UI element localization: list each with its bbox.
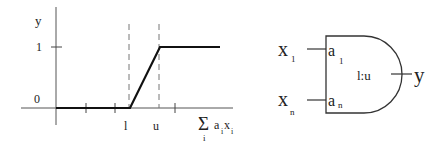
sigma-symbol: Σ [198, 113, 209, 134]
y-tick-label-0: 0 [34, 92, 40, 106]
diagram-canvas: y 1 0 l u Σ i a i x i x 1 x n a 1 a n l:… [0, 0, 443, 143]
weight-subscript-1: 1 [339, 56, 344, 66]
x-subscript: i [231, 127, 234, 136]
x-tick-label-u: u [153, 119, 159, 133]
weight-label-n: a [328, 92, 335, 109]
threshold-label: l:u [357, 68, 371, 83]
weight-label-1: a [328, 42, 335, 59]
input-subscript-1: 1 [291, 54, 296, 64]
x-tick-label-l: l [124, 119, 128, 133]
sigma-subscript: i [203, 133, 206, 143]
input-label-n: x [278, 88, 288, 110]
a-symbol: a [214, 118, 220, 132]
threshold-curve [56, 47, 220, 108]
threshold-graph: y 1 0 l u Σ i a i x i [21, 7, 234, 143]
y-axis-label: y [35, 13, 42, 28]
x-axis-label: Σ i a i x i [198, 113, 234, 143]
output-label: y [414, 63, 425, 87]
input-label-1: x [278, 38, 288, 60]
threshold-gate: x 1 x n a 1 a n l:u y [278, 36, 425, 117]
y-tick-label-1: 1 [36, 40, 42, 54]
weight-subscript-n: n [338, 100, 343, 110]
input-subscript-n: n [290, 107, 295, 117]
x-symbol: x [224, 118, 230, 132]
